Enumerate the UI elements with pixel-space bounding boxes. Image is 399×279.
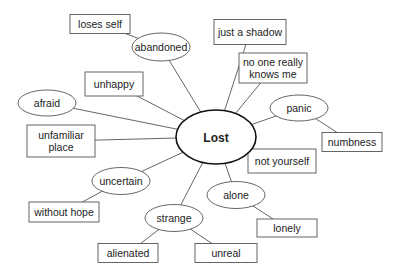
node-unfamiliar-place: unfamiliarplace (27, 125, 95, 157)
node-abandoned: abandoned (132, 33, 190, 61)
node-label: unreal (211, 247, 240, 259)
node-label: place (48, 141, 73, 153)
node-not-yourself: not yourself (248, 149, 316, 173)
node-label: alienated (107, 247, 150, 259)
node-without-hope: without hope (29, 202, 99, 222)
node-label: loses self (78, 18, 122, 30)
node-label: uncertain (99, 175, 142, 187)
lost-mind-map: loses selfabandonedjust a shadowno one r… (0, 0, 399, 279)
node-label: unfamiliar (38, 129, 84, 141)
node-alone: alone (207, 182, 265, 209)
center-label: Lost (203, 131, 228, 145)
node-label: abandoned (135, 41, 188, 53)
node-afraid: afraid (18, 90, 76, 116)
node-label: afraid (34, 97, 60, 109)
node-just-a-shadow: just a shadow (214, 20, 286, 45)
node-unreal: unreal (195, 244, 257, 263)
node-label: panic (286, 102, 311, 114)
node-label: no one really (243, 56, 304, 68)
node-label: unhappy (94, 78, 135, 90)
node-label: numbness (328, 136, 376, 148)
node-label: not yourself (255, 155, 309, 167)
node-label: alone (223, 189, 249, 201)
node-loses-self: loses self (70, 15, 130, 34)
node-lonely: lonely (257, 219, 317, 237)
node-unhappy: unhappy (85, 72, 143, 96)
node-label: without hope (33, 206, 94, 218)
node-label: just a shadow (217, 26, 283, 38)
center-node-lost: Lost (176, 110, 256, 164)
node-label: lonely (273, 222, 301, 234)
node-label: knows me (249, 68, 296, 80)
node-numbness: numbness (322, 133, 382, 152)
node-alienated: alienated (98, 244, 158, 263)
node-label: strange (156, 212, 191, 224)
node-panic: panic (270, 95, 328, 121)
node-strange: strange (145, 205, 203, 232)
node-uncertain: uncertain (92, 168, 150, 195)
node-no-one-really-knows-me: no one reallyknows me (239, 53, 307, 83)
